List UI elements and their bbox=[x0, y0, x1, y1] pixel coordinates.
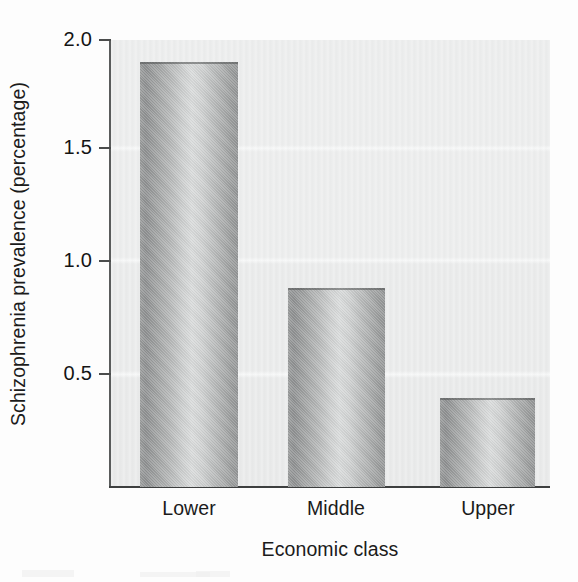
bar-upper-cap bbox=[440, 398, 535, 400]
x-category-label-upper: Upper bbox=[418, 497, 558, 520]
bar-middle-cap bbox=[288, 288, 385, 290]
y-tick-mark-1-0 bbox=[99, 260, 111, 262]
scan-artifact-right bbox=[196, 571, 230, 577]
y-axis-spine bbox=[109, 39, 111, 488]
y-tick-mark-0-5 bbox=[99, 373, 111, 375]
bar-upper bbox=[440, 398, 535, 487]
x-axis-title: Economic class bbox=[110, 538, 550, 561]
bar-lower-cap bbox=[140, 62, 238, 64]
bar-lower bbox=[140, 62, 238, 487]
y-tick-mark-2-0 bbox=[99, 39, 111, 41]
x-category-label-middle: Middle bbox=[266, 497, 406, 520]
scan-artifact-left bbox=[22, 570, 74, 577]
y-axis-title: Schizophrenia prevalence (percentage) bbox=[0, 30, 36, 478]
bar-middle bbox=[288, 288, 385, 487]
figure-container: 2.0 1.5 1.0 0.5 Lower Middle Upper Schiz… bbox=[0, 0, 578, 582]
y-tick-mark-1-5 bbox=[99, 147, 111, 149]
x-category-label-lower: Lower bbox=[119, 497, 259, 520]
